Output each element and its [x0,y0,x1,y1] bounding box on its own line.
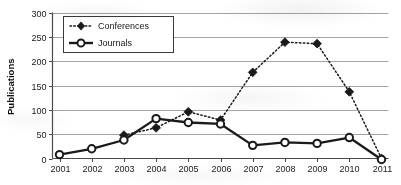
x-tick-label: 2010 [339,164,359,174]
x-tick-label: 2002 [82,164,102,174]
data-point-marker-journals [185,119,192,126]
legend-label-conferences: Conferences [98,21,150,31]
data-point-marker-journals [249,142,256,149]
x-tick-label: 2005 [178,164,198,174]
y-axis-title: Publications [5,59,16,115]
chart-canvas: Publications 050100150200250300 20012002… [0,0,401,185]
x-tick-label: 2011 [373,164,392,174]
y-tick-label: 50 [36,130,46,140]
data-point-marker-journals [217,120,224,127]
y-tick-label: 100 [31,106,46,116]
data-point-marker-journals [378,156,385,163]
x-tick-label: 2006 [211,164,231,174]
y-tick-label: 300 [31,9,46,19]
y-tick-label: 250 [31,33,46,43]
data-point-marker-journals [120,136,127,143]
x-tick-label: 2008 [275,164,295,174]
x-tick-label: 2001 [50,164,70,174]
y-tick-label: 0 [41,155,46,165]
x-tick-label: 2009 [307,164,327,174]
data-point-marker-journals [56,151,63,158]
chart-legend: Conferences Journals [64,17,174,53]
data-point-marker-journals [88,145,95,152]
y-tick-label: 200 [31,57,46,67]
legend-label-journals: Journals [98,38,133,48]
y-axis-title-text: Publications [5,59,16,115]
data-point-marker-journals [281,139,288,146]
open-circle-icon [78,40,85,47]
y-tick-label: 150 [31,82,46,92]
publications-line-chart: Publications 050100150200250300 20012002… [0,0,401,185]
x-tick-label: 2004 [146,164,166,174]
data-point-marker-journals [313,140,320,147]
data-point-marker-journals [346,134,353,141]
data-point-marker-journals [152,115,159,122]
x-tick-label: 2007 [243,164,263,174]
x-tick-label: 2003 [114,164,134,174]
